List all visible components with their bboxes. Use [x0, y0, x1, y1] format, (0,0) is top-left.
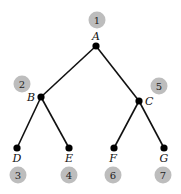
tree-node-d: D	[12, 144, 22, 165]
node-dot-icon	[13, 144, 20, 151]
tree-node-g: G	[160, 144, 169, 165]
visit-order-badge-4: 4	[61, 167, 78, 184]
node-label: C	[145, 95, 154, 108]
order-number: 2	[19, 79, 25, 90]
node-dot-icon	[110, 144, 117, 151]
node-dot-icon	[65, 144, 72, 151]
visit-order-badge-6: 6	[105, 167, 122, 184]
order-number: 4	[66, 170, 72, 181]
order-number: 7	[160, 170, 166, 181]
edge-a-c	[96, 46, 139, 101]
order-number: 1	[94, 15, 100, 26]
tree-node-e: E	[64, 144, 73, 165]
edge-c-f	[114, 101, 139, 148]
node-dot-icon	[37, 93, 44, 100]
order-number: 6	[110, 170, 116, 181]
edge-a-b	[41, 46, 96, 97]
order-number: 3	[15, 170, 21, 181]
node-label: D	[12, 152, 22, 165]
node-dot-icon	[160, 144, 167, 151]
tree-node-a: A	[91, 30, 100, 50]
tree-diagram: ABCDEFG 1253467	[0, 0, 181, 194]
tree-node-c: C	[135, 95, 154, 108]
node-dot-icon	[135, 97, 142, 104]
visit-order-badge-1: 1	[89, 12, 106, 29]
tree-node-b: B	[26, 91, 45, 104]
node-label: B	[26, 91, 35, 104]
tree-node-f: F	[108, 144, 117, 165]
edge-b-d	[17, 97, 41, 148]
node-label: E	[64, 152, 73, 165]
visit-order-badge-3: 3	[10, 167, 27, 184]
edge-b-e	[41, 97, 69, 148]
tree-nodes: ABCDEFG	[12, 30, 169, 165]
node-label: G	[160, 152, 169, 165]
node-dot-icon	[92, 42, 99, 49]
visit-order-badge-2: 2	[14, 76, 31, 93]
order-number: 5	[156, 81, 162, 92]
visit-order-badge-5: 5	[151, 78, 168, 95]
node-label: A	[91, 30, 100, 43]
node-label: F	[108, 152, 117, 165]
edge-c-g	[139, 101, 164, 148]
visit-order-badge-7: 7	[155, 167, 172, 184]
